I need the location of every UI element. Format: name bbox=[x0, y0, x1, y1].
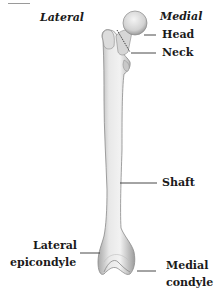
head-label: Head bbox=[162, 28, 194, 41]
shaft-label: Shaft bbox=[162, 176, 195, 189]
medial-orientation-label: Medial bbox=[160, 10, 202, 23]
femur-bone bbox=[98, 11, 147, 274]
medial-condyle-label-line2: condyle bbox=[166, 276, 213, 289]
lateral-epicondyle-label-line1: Lateral bbox=[33, 239, 77, 252]
lateral-epicondyle-label-line2: epicondyle bbox=[10, 256, 76, 269]
femur-illustration bbox=[0, 0, 219, 298]
neck-label: Neck bbox=[162, 46, 193, 59]
medial-condyle-label-line1: Medial bbox=[166, 259, 208, 272]
lateral-orientation-label: Lateral bbox=[40, 11, 84, 24]
